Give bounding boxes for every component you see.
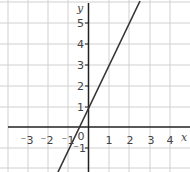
x-tick-labels: ⁻3 ⁻2 ⁻1 0 1 2 3 4: [21, 130, 174, 147]
y-tick-marks: [85, 23, 88, 148]
origin-label: 0: [78, 130, 85, 143]
y-tick-2: 2: [77, 80, 84, 93]
y-tick-1: 1: [77, 101, 84, 114]
x-axis-label: x: [181, 131, 188, 144]
x-tick-1: 1: [106, 134, 113, 147]
x-tick-minus-1: ⁻1: [62, 134, 75, 147]
x-tick-2: 2: [127, 134, 134, 147]
x-tick-4: 4: [167, 134, 174, 147]
graph: y x 5 4 3 2 1 ⁻1 ⁻3 ⁻2 ⁻1 0 1 2 3 4: [0, 0, 190, 172]
y-axis-label: y: [76, 2, 84, 15]
x-tick-minus-2: ⁻2: [41, 134, 54, 147]
x-tick-minus-3: ⁻3: [21, 134, 34, 147]
y-tick-4: 4: [77, 38, 84, 51]
x-tick-3: 3: [148, 134, 155, 147]
y-tick-5: 5: [77, 17, 84, 30]
y-tick-minus-1: ⁻1: [73, 142, 86, 155]
y-tick-3: 3: [77, 59, 84, 72]
